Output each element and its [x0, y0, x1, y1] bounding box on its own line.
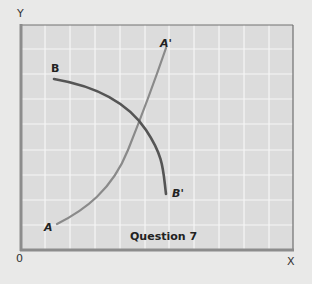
chart-caption: Question 7	[130, 230, 197, 243]
plot-area	[21, 25, 293, 250]
x-axis-label: X	[287, 255, 295, 268]
label-b-prime: B'	[172, 187, 184, 200]
label-a: A	[44, 221, 53, 234]
label-b: B	[51, 62, 59, 75]
y-axis-label: Y	[17, 7, 24, 20]
origin-label: 0	[16, 252, 23, 265]
label-a-prime: A'	[160, 37, 172, 50]
